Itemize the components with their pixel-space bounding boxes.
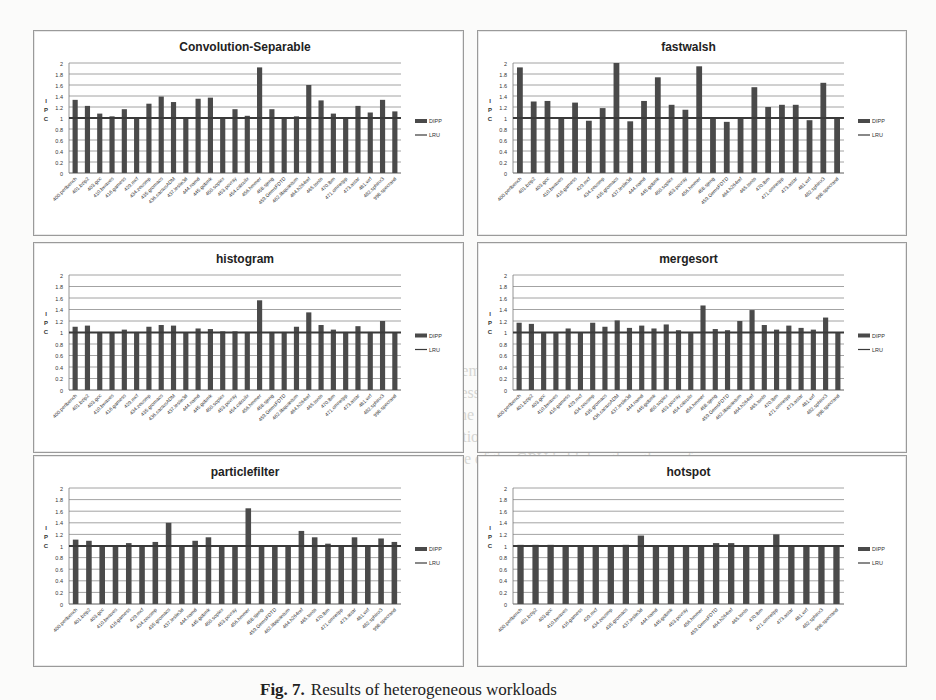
bar-dipp [380, 100, 385, 173]
bar-dipp [517, 67, 523, 173]
y-axis-label: C [488, 329, 493, 335]
bar-dipp [134, 119, 139, 173]
y-tick-label: 0.6 [55, 138, 63, 144]
y-tick-label: 1 [504, 330, 507, 336]
y-tick-label: 0 [504, 171, 507, 177]
chart-svg: mergesort00.20.40.60.811.21.41.61.82IPC4… [478, 243, 906, 452]
x-tick-label: 473.astar [775, 606, 794, 625]
bar-dipp [725, 330, 730, 390]
bar-dipp [688, 333, 693, 390]
bar-dipp [392, 111, 397, 173]
bar-dipp [183, 118, 188, 173]
chart-panel-histogram: histogram00.20.40.60.811.21.41.61.82IPC4… [33, 242, 464, 453]
y-tick-label: 1.6 [499, 509, 507, 515]
bar-dipp [208, 329, 213, 390]
x-tick-label: 400.perlbench [497, 606, 524, 633]
legend-swatch-dipp [858, 119, 870, 123]
bar-dipp [639, 326, 644, 390]
y-tick-label: 2 [60, 61, 63, 67]
bar-dipp [245, 508, 251, 604]
bar-dipp [698, 545, 704, 604]
bar-dipp [788, 545, 794, 604]
y-tick-label: 1 [504, 544, 507, 550]
y-tick-label: 0.8 [499, 342, 507, 348]
bar-dipp [608, 545, 614, 604]
bar-dipp [232, 331, 237, 390]
bar-dipp [392, 333, 397, 391]
bar-dipp [818, 545, 824, 604]
bar-dipp [743, 545, 749, 604]
y-tick-label: 0.2 [499, 376, 507, 382]
bar-dipp [220, 331, 225, 390]
bar-dipp [758, 545, 764, 604]
legend-swatch-dipp [415, 119, 427, 123]
bar-dipp [126, 543, 132, 604]
bar-dipp [700, 305, 705, 390]
bar-dipp [171, 102, 176, 173]
bar-dipp [109, 332, 114, 390]
bar-dipp [811, 330, 816, 390]
bar-dipp [159, 97, 164, 173]
y-tick-label: 2 [60, 486, 63, 492]
bar-dipp [269, 332, 274, 390]
y-tick-label: 0 [504, 602, 507, 608]
y-axis-label: I [489, 98, 491, 104]
legend-swatch-dipp [415, 547, 427, 551]
bar-dipp [343, 119, 348, 173]
bar-dipp [73, 540, 79, 604]
y-tick-label: 1.8 [499, 284, 507, 290]
bar-dipp [737, 321, 742, 390]
chart-panel-fastwalsh: fastwalsh00.20.40.60.811.21.41.61.82IPC4… [477, 30, 907, 236]
chart-title: histogram [216, 252, 274, 266]
bar-dipp [85, 326, 90, 390]
y-tick-label: 1 [60, 116, 63, 122]
bar-dipp [109, 116, 114, 173]
y-tick-label: 1.4 [55, 307, 63, 313]
bar-dipp [710, 117, 716, 173]
bar-dipp [683, 545, 689, 604]
bar-dipp [558, 118, 564, 173]
bar-dipp [517, 545, 523, 604]
bar-dipp [728, 543, 734, 604]
bar-dipp [823, 318, 828, 390]
y-tick-label: 1 [60, 330, 63, 336]
bar-dipp [318, 325, 323, 390]
chart-panel-mergesort: mergesort00.20.40.60.811.21.41.61.82IPC4… [477, 242, 907, 453]
y-tick-label: 1.2 [499, 105, 507, 111]
figure-caption-text: Results of heterogeneous workloads [311, 680, 557, 699]
bar-dipp [676, 330, 681, 390]
bar-dipp [833, 545, 839, 604]
y-tick-label: 1.8 [499, 72, 507, 78]
bar-dipp [641, 101, 647, 173]
y-tick-label: 0.2 [55, 160, 63, 166]
y-axis-label: I [489, 311, 491, 317]
bar-dipp [378, 538, 384, 604]
y-tick-label: 2 [60, 273, 63, 279]
chart-svg: fastwalsh00.20.40.60.811.21.41.61.82IPC4… [478, 31, 906, 235]
y-axis-label: P [44, 320, 48, 326]
bar-dipp [627, 328, 632, 390]
bar-dipp [696, 66, 702, 173]
bar-dipp [724, 122, 730, 173]
bar-dipp [196, 99, 201, 173]
y-tick-label: 1.8 [499, 497, 507, 503]
y-tick-label: 1 [60, 544, 63, 550]
y-axis-label: P [44, 107, 48, 113]
y-tick-label: 0 [504, 388, 507, 394]
bar-dipp [627, 121, 633, 173]
bar-dipp [146, 327, 151, 390]
y-axis-label: P [488, 320, 492, 326]
bar-dipp [113, 545, 119, 604]
y-tick-label: 1.6 [55, 509, 63, 515]
bar-dipp [245, 332, 250, 390]
y-axis-label: P [44, 534, 48, 540]
y-axis-label: C [44, 543, 49, 549]
y-tick-label: 0.2 [499, 590, 507, 596]
bar-dipp [97, 332, 102, 390]
y-tick-label: 1.6 [55, 296, 63, 302]
legend-label-dipp: DIPP [872, 546, 885, 552]
bar-dipp [566, 328, 571, 390]
y-tick-label: 0.8 [55, 555, 63, 561]
bar-dipp [257, 67, 262, 173]
y-tick-label: 1.4 [499, 520, 507, 526]
